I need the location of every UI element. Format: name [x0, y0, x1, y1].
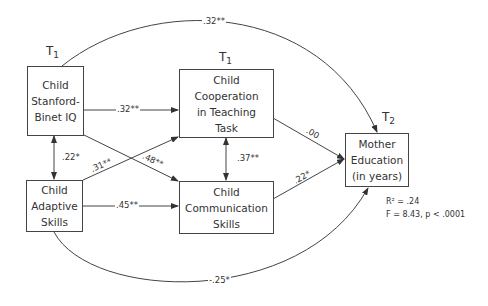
node-line: Cooperation — [194, 88, 258, 104]
coef-adaptive-comm: .45** — [115, 200, 139, 210]
f-test-stat: F = 8.43, p < .0001 — [386, 209, 465, 221]
node-line: Binet IQ — [34, 109, 76, 125]
node-line: Task — [215, 120, 238, 136]
coef-iq-coop: .32** — [116, 104, 140, 114]
node-line: Mother — [358, 136, 395, 152]
time-subscript: 1 — [53, 50, 59, 60]
node-line: Child — [213, 72, 240, 88]
node-child-communication-skills: Child Communication Skills — [179, 181, 274, 234]
time-label-iq: T1 — [46, 44, 59, 60]
time-label-coop: T1 — [219, 50, 232, 66]
node-line: Education — [351, 152, 403, 168]
node-child-adaptive-skills: Child Adaptive Skills — [26, 180, 83, 232]
node-line: Child — [41, 182, 68, 198]
coef-adaptive-mother: -.25* — [208, 275, 231, 285]
node-child-cooperation: Child Cooperation in Teaching Task — [179, 69, 274, 138]
node-line: Child — [42, 77, 69, 93]
node-mother-education: Mother Education (in years) — [345, 133, 409, 187]
node-line: Adaptive — [31, 198, 77, 214]
coef-iq-mother: .32** — [202, 16, 226, 26]
node-child-stanford-binet-iq: Child Stanford- Binet IQ — [27, 66, 84, 136]
r-squared-stat: R² = .24 — [386, 196, 419, 208]
node-line: Communication — [185, 200, 268, 216]
coef-iq-adaptive: .22* — [61, 152, 81, 162]
node-line: Child — [213, 184, 240, 200]
time-label-mother: T2 — [382, 110, 395, 126]
node-line: Skills — [213, 216, 240, 232]
node-line: Skills — [41, 214, 68, 230]
node-line: (in years) — [352, 168, 402, 184]
node-line: Stanford- — [31, 93, 80, 109]
coef-coop-comm: .37** — [236, 153, 260, 163]
node-line: in Teaching — [197, 104, 256, 120]
time-subscript: 2 — [389, 116, 395, 126]
time-subscript: 1 — [226, 56, 232, 66]
